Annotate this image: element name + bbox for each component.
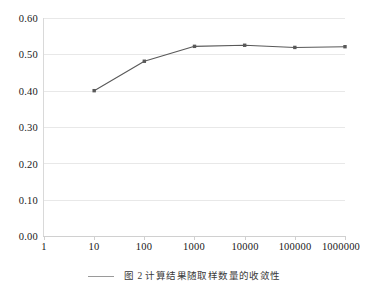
chart-figure: 0.60 0.50 0.40 0.30 0.20 0.10 0.00 1 10 … [0, 0, 369, 281]
y-axis-tick-label: 0.30 [4, 122, 38, 133]
y-axis-tick-label: 0.60 [4, 13, 38, 24]
x-axis-tick-label: 10000 [231, 241, 258, 253]
plot-area [44, 18, 345, 236]
data-point-marker [243, 44, 246, 47]
x-axis-tick-mark [44, 236, 45, 240]
data-point-marker [143, 60, 146, 63]
data-point-marker [293, 46, 296, 49]
y-axis-tick-label: 0.20 [4, 159, 38, 170]
x-axis-tick-label: 100 [136, 241, 152, 253]
x-axis-tick-mark [295, 236, 296, 240]
data-point-marker [343, 45, 346, 48]
x-axis-tick-mark [345, 236, 346, 240]
series-line-chart [44, 18, 345, 236]
y-axis-tick-label: 0.00 [4, 231, 38, 242]
x-axis-tick-mark [194, 236, 195, 240]
x-axis-tick-label: 1000 [183, 241, 205, 253]
caption-text: 图 2 计算结果随取样数量的收敛性 [124, 271, 280, 281]
data-point-marker [193, 45, 196, 48]
y-axis-tick-label: 0.50 [4, 49, 38, 60]
y-axis-tick-label: 0.40 [4, 86, 38, 97]
figure-caption: 图 2 计算结果随取样数量的收敛性 [0, 270, 369, 281]
x-axis-tick-label: 1 [41, 241, 46, 253]
x-axis-tick-label: 10 [89, 241, 100, 253]
x-axis-tick-mark [144, 236, 145, 240]
x-axis-tick-label: 100000 [279, 241, 312, 253]
x-axis-tick-mark [94, 236, 95, 240]
y-axis-tick-label: 0.10 [4, 195, 38, 206]
series-markers [92, 44, 346, 93]
caption-rule [88, 276, 114, 277]
x-axis-tick-mark [245, 236, 246, 240]
data-point-marker [92, 89, 95, 92]
x-axis-tick-label: 1000000 [322, 241, 360, 253]
series-polyline [94, 45, 345, 90]
